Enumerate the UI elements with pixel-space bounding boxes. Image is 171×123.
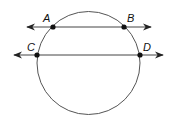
geometry-diagram: A B C D: [0, 0, 171, 123]
point-a: [50, 24, 55, 29]
label-a: A: [42, 12, 50, 24]
point-b: [121, 24, 126, 29]
point-d: [137, 52, 142, 57]
label-d: D: [143, 41, 151, 53]
point-c: [34, 52, 39, 57]
label-c: C: [27, 41, 35, 53]
label-b: B: [127, 12, 134, 24]
